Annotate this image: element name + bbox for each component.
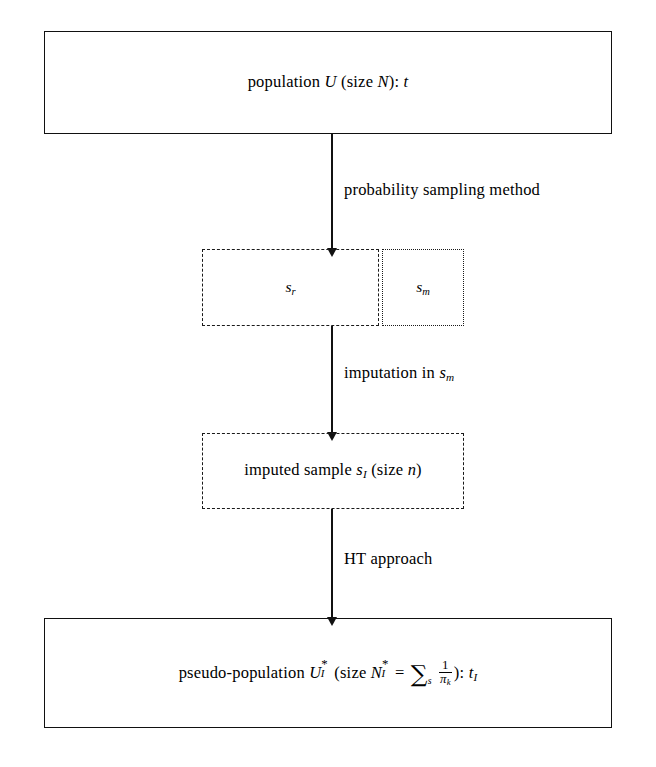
pseudo-symbol-group: U*I — [309, 663, 321, 684]
population-size-prefix: (size — [341, 72, 373, 91]
pi-subscript: k — [447, 677, 451, 687]
diagram-canvas: population U (size N): t probability sam… — [0, 0, 656, 767]
imputation-prefix: imputation in — [344, 363, 435, 382]
respondent-sample-label: sr — [285, 278, 295, 297]
node-population-label: population U (size N): t — [248, 72, 409, 93]
imputed-sample-label: imputed sample sI (size n) — [244, 460, 422, 481]
imputation-subscript: m — [446, 371, 454, 383]
missing-subscript: m — [422, 286, 430, 297]
node-respondent-sample: sr — [202, 249, 379, 326]
arrow-population-to-sample — [331, 134, 333, 249]
arrow-imputed-to-pseudo — [331, 509, 333, 618]
respondent-subscript: r — [291, 286, 295, 297]
summation-symbol: ∑s — [411, 665, 428, 684]
arrow-sample-to-imputed — [331, 326, 333, 433]
node-imputed-sample: imputed sample sI (size n) — [202, 433, 464, 509]
pseudo-size-subscript: I — [382, 667, 386, 681]
pseudo-population-label: pseudo-population U*I (size N*I = ∑s 1πk… — [179, 659, 478, 688]
node-population: population U (size N): t — [44, 31, 612, 134]
population-size-suffix: ): — [389, 72, 399, 91]
node-missing-sample: sm — [382, 249, 464, 326]
imputed-symbol: s — [356, 460, 363, 479]
pi-symbol: π — [440, 672, 447, 686]
pseudo-size-prefix: (size — [334, 663, 366, 682]
node-pseudo-population: pseudo-population U*I (size N*I = ∑s 1πk… — [44, 618, 612, 728]
pseudo-text: pseudo-population — [179, 663, 305, 682]
imputed-text: imputed sample — [244, 460, 352, 479]
missing-sample-label: sm — [416, 278, 430, 297]
imputed-subscript: I — [363, 469, 367, 481]
pseudo-size-suffix: ): — [454, 663, 464, 682]
pseudo-equals: = — [395, 663, 405, 682]
population-total: t — [404, 72, 409, 91]
inverse-probability-fraction: 1πk — [439, 659, 452, 688]
population-symbol: U — [325, 72, 337, 91]
sum-subscript: s — [428, 677, 432, 685]
pseudo-symbol: U — [309, 663, 321, 682]
pseudo-size-group: N*I — [371, 663, 382, 684]
pseudo-symbol-subscript: I — [321, 667, 325, 681]
sum-glyph: ∑ — [411, 660, 428, 688]
edge-label-imputation: imputation in sm — [344, 363, 454, 383]
fraction-numerator: 1 — [439, 659, 452, 673]
imputed-size-symbol: n — [408, 460, 416, 479]
fraction-denominator: πk — [439, 673, 452, 688]
pseudo-total-subscript: I — [473, 671, 477, 683]
edge-label-sampling: probability sampling method — [344, 180, 540, 200]
imputed-size-prefix: (size — [371, 460, 403, 479]
edge-label-ht: HT approach — [344, 549, 433, 569]
population-text: population — [248, 72, 321, 91]
population-size-symbol: N — [378, 72, 389, 91]
imputed-size-suffix: ) — [416, 460, 422, 479]
pseudo-size-symbol: N — [371, 663, 382, 682]
